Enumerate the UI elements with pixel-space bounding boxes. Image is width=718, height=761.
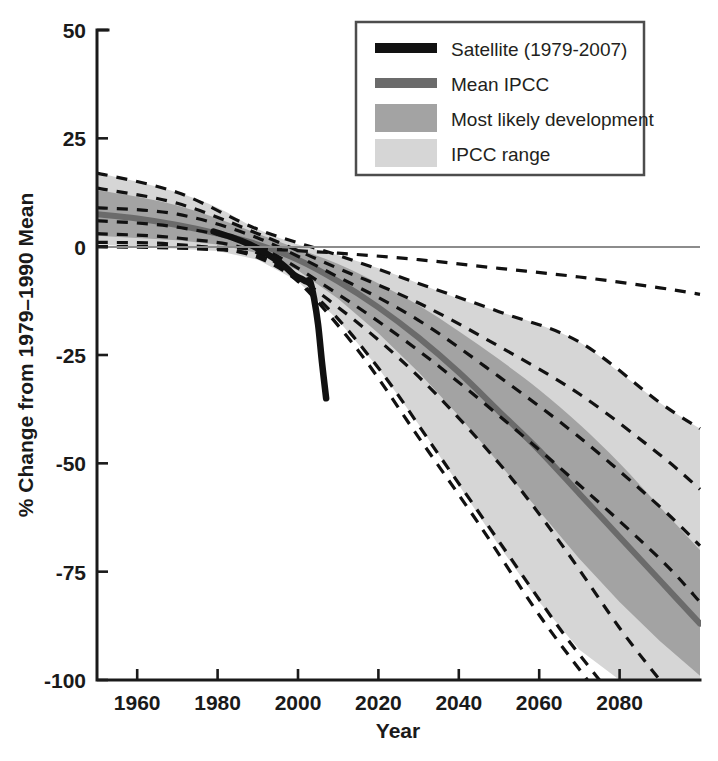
x-tick-label-1980: 1980 xyxy=(194,691,241,714)
x-tick-label-1960: 1960 xyxy=(114,691,161,714)
y-tick-label-25: 25 xyxy=(63,127,87,150)
legend-swatch-line-1 xyxy=(375,78,437,88)
y-tick-label--50: -50 xyxy=(56,452,86,475)
legend-label-0: Satellite (1979-2007) xyxy=(451,39,627,60)
y-tick-label--25: -25 xyxy=(56,344,87,367)
x-tick-label-2000: 2000 xyxy=(275,691,322,714)
chart-figure: 50250-25-50-75-100 196019802000202020402… xyxy=(0,0,718,761)
legend-label-3: IPCC range xyxy=(451,144,550,165)
x-tick-label-2040: 2040 xyxy=(435,691,482,714)
x-tick-label-2060: 2060 xyxy=(516,691,563,714)
y-axis-title: % Change from 1979–1990 Mean xyxy=(14,193,37,517)
chart-legend: Satellite (1979-2007)Mean IPCCMost likel… xyxy=(356,22,654,175)
legend-swatch-band-2 xyxy=(375,104,437,132)
y-tick-label--75: -75 xyxy=(56,561,87,584)
y-tick-label--100: -100 xyxy=(44,669,86,692)
legend-label-1: Mean IPCC xyxy=(451,74,549,95)
legend-swatch-band-3 xyxy=(375,139,437,167)
y-tick-label-0: 0 xyxy=(74,236,86,259)
x-tick-label-2020: 2020 xyxy=(355,691,402,714)
y-tick-label-50: 50 xyxy=(63,19,86,42)
legend-swatch-line-0 xyxy=(375,43,437,53)
legend-label-2: Most likely development xyxy=(451,109,654,130)
x-tick-label-2080: 2080 xyxy=(596,691,643,714)
sea-ice-projection-chart: 50250-25-50-75-100 196019802000202020402… xyxy=(0,0,718,761)
x-axis-title: Year xyxy=(376,719,420,742)
